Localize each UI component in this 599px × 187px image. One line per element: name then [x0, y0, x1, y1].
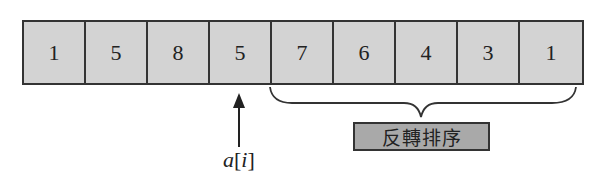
curly-brace: [270, 87, 576, 117]
up-arrow-icon: [233, 93, 245, 147]
annotation-overlay: [0, 0, 599, 187]
pointer-label: a[i]: [223, 147, 255, 173]
reverse-sort-label: 反轉排序: [353, 122, 490, 151]
